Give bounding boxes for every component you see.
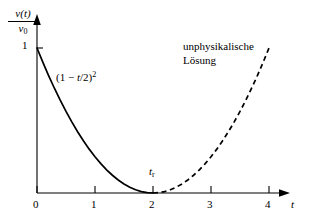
formula-open: (1 (56, 71, 68, 83)
y-tick-label-1: 1 (22, 40, 28, 51)
x-tick-label-0: 0 (33, 199, 39, 210)
velocity-time-plot: v(t) v0 1 0 1 2 3 4 t (1 − t/2)2 tr unph… (0, 0, 310, 220)
x-tick-label-2: 2 (149, 199, 155, 210)
unphysical-annotation-line-2: Lösung (183, 54, 254, 68)
unphysical-annotation-line-1: unphysikalische (183, 40, 254, 54)
unphysical-solution-annotation: unphysikalische Lösung (183, 40, 254, 68)
x-axis-arrowhead (279, 189, 290, 197)
curve-unphysical-solution (153, 48, 269, 193)
y-axis-label-denominator: v0 (8, 22, 38, 36)
y-axis-label: v(t) v0 (8, 8, 38, 36)
x-tick-label-4: 4 (265, 199, 271, 210)
formula-rest: /2) (80, 71, 92, 83)
y-axis-label-numerator: v(t) (8, 8, 38, 22)
formula-exponent: 2 (92, 70, 96, 79)
x-tick-label-1: 1 (91, 199, 97, 210)
plot-canvas (0, 0, 310, 220)
formula-minus: − (68, 71, 77, 83)
x-axis-label: t (291, 199, 294, 210)
turning-point-label: tr (149, 166, 155, 179)
curve-formula-annotation: (1 − t/2)2 (56, 71, 96, 83)
y-axis-label-denominator-subscript: 0 (23, 27, 27, 36)
x-tick-label-3: 3 (207, 199, 213, 210)
turning-point-subscript: r (152, 170, 155, 179)
